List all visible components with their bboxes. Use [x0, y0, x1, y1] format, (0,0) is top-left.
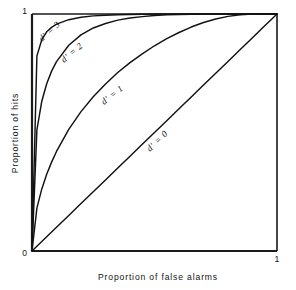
y-tick-label-bottom: 0: [22, 248, 27, 258]
roc-plot-svg: d' = 3 d' = 2 d' = 1 d' = 0 1 0 1 Propor…: [0, 0, 296, 290]
curve-label-dprime-3: d' = 3: [37, 19, 63, 44]
y-tick-label-top: 1: [22, 6, 27, 16]
curve-label-dprime-2: d' = 2: [59, 40, 85, 64]
curve-label-dprime-0: d' = 0: [144, 128, 169, 153]
x-axis-label: Proportion of false alarms: [98, 272, 218, 282]
axis-titles: Proportion of hits Proportion of false a…: [10, 93, 218, 282]
roc-figure: d' = 3 d' = 2 d' = 1 d' = 0 1 0 1 Propor…: [0, 0, 296, 290]
y-axis-label: Proportion of hits: [10, 93, 20, 173]
x-tick-label-right: 1: [275, 254, 280, 264]
